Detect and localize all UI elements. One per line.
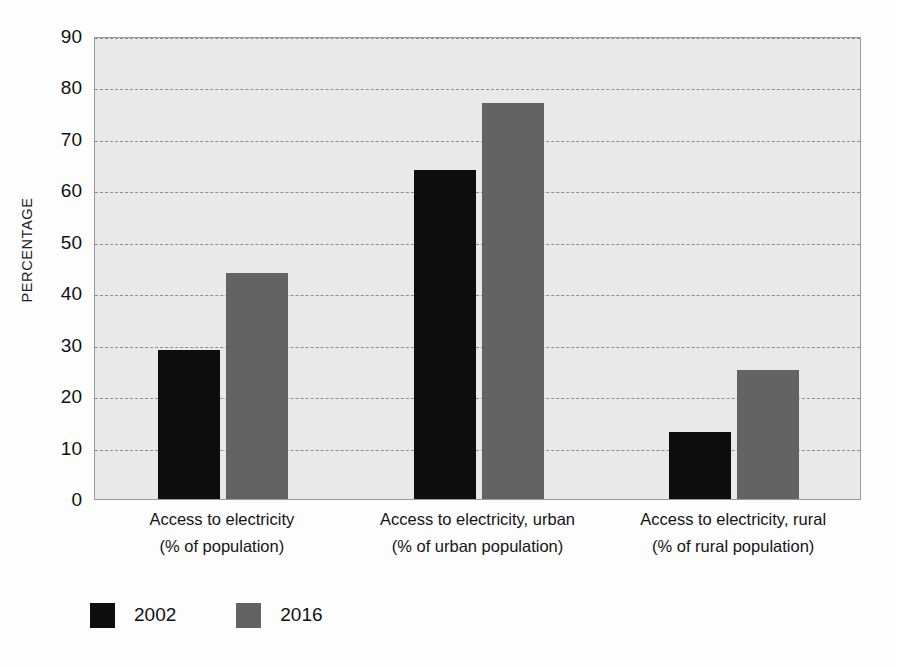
- bar-chart: PERCENTAGE 9080706050403020100 Access to…: [0, 0, 897, 667]
- category-label-line1: Access to electricity: [149, 510, 294, 528]
- bar: [158, 350, 220, 499]
- legend-label: 2002: [134, 604, 176, 626]
- y-axis-tick-labels: 9080706050403020100: [46, 37, 88, 500]
- bar: [226, 273, 288, 499]
- category-label-line1: Access to electricity, urban: [380, 510, 575, 528]
- y-axis-tick-label: 30: [61, 335, 82, 357]
- legend-swatch: [236, 603, 261, 628]
- bar: [414, 170, 476, 499]
- y-axis-tick-label: 40: [61, 283, 82, 305]
- y-axis-tick-label: 10: [61, 438, 82, 460]
- category-label-line2: (% of rural population): [605, 533, 861, 560]
- category-label-line2: (% of urban population): [350, 533, 606, 560]
- y-axis-tick-label: 90: [61, 26, 82, 48]
- y-axis-tick-label: 70: [61, 129, 82, 151]
- x-axis-category-label: Access to electricity, rural(% of rural …: [605, 506, 861, 560]
- y-axis-tick-label: 50: [61, 232, 82, 254]
- legend-label: 2016: [280, 604, 322, 626]
- bar: [737, 370, 799, 499]
- legend-swatch: [90, 603, 115, 628]
- legend-entry: 2016: [236, 603, 322, 628]
- y-axis-title-text: PERCENTAGE: [19, 198, 35, 303]
- bars-layer: [95, 38, 860, 499]
- y-axis-tick-label: 0: [71, 489, 82, 511]
- legend-entry: 2002: [90, 603, 176, 628]
- x-axis-category-labels: Access to electricity(% of population)Ac…: [94, 506, 861, 576]
- legend: 20022016: [90, 600, 383, 630]
- y-axis-tick-label: 20: [61, 386, 82, 408]
- y-axis-tick-label: 80: [61, 77, 82, 99]
- category-label-line2: (% of population): [94, 533, 350, 560]
- bar: [669, 432, 731, 499]
- bar: [482, 103, 544, 499]
- category-label-line1: Access to electricity, rural: [640, 510, 826, 528]
- plot-area: [94, 37, 861, 500]
- x-axis-category-label: Access to electricity(% of population): [94, 506, 350, 560]
- y-axis-tick-label: 60: [61, 180, 82, 202]
- x-axis-category-label: Access to electricity, urban(% of urban …: [350, 506, 606, 560]
